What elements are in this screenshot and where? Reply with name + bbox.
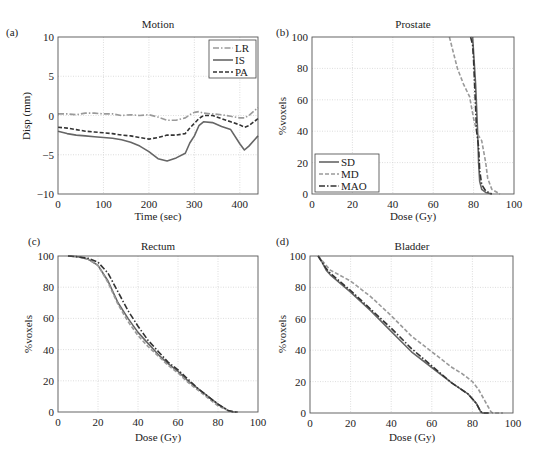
legend-label-is: IS [235,54,245,66]
y-tick-label: −10 [37,188,55,200]
ylabel-b: %voxels [276,97,288,135]
x-tick-label: 100 [250,416,267,428]
y-tick-label: −5 [42,149,54,161]
x-tick-label: 80 [213,416,225,428]
legend-label-lr: LR [235,42,250,54]
y-tick-label: 100 [290,250,307,262]
y-tick-label: 80 [43,281,55,293]
y-tick-label: 10 [43,31,55,43]
panel-b: (b) Prostate 020406080100020406080100SDM… [276,18,523,223]
ylabel-d: %voxels [276,315,288,353]
ylabel-a: Disp (mm) [20,92,33,140]
y-tick-label: 0 [303,188,309,200]
plot-area-d: 020406080100020406080100 [290,250,522,429]
series-line-sd [473,37,492,194]
xlabel-d: Dose (Gy) [389,431,435,444]
y-tick-label: 40 [43,344,55,356]
x-tick-label: 300 [186,198,203,210]
x-tick-label: 100 [505,417,522,429]
plot-area-a: 0100200300400−10−50510LRISPA [37,31,258,210]
x-tick-label: 40 [387,198,399,210]
x-tick-label: 40 [133,416,145,428]
y-tick-label: 0 [49,406,55,418]
legend-label-pa: PA [235,66,248,78]
panel-label-d: (d) [276,235,289,248]
x-tick-label: 60 [428,198,440,210]
series-line-sd [318,256,489,413]
x-tick-label: 0 [55,416,61,428]
y-tick-label: 0 [301,407,307,419]
panel-c: (c) Rectum 020406080100020406080100 Dose… [22,235,267,444]
x-tick-label: 20 [345,417,357,429]
x-tick-label: 400 [232,198,249,210]
y-tick-label: 60 [297,94,309,106]
y-tick-label: 80 [297,62,309,74]
y-tick-label: 20 [297,157,309,169]
axes-frame [58,256,258,412]
y-tick-label: 100 [38,250,55,262]
panel-label-a: (a) [6,26,19,39]
x-tick-label: 20 [93,416,105,428]
y-tick-label: 60 [43,312,55,324]
panel-label-b: (b) [276,26,289,39]
xlabel-c: Dose (Gy) [135,431,181,444]
series-line-lr [58,108,258,121]
legend-label-mao: MAO [341,180,367,192]
x-tick-label: 40 [386,417,398,429]
y-tick-label: 40 [295,344,307,356]
panel-d: (d) Bladder 020406080100020406080100 Dos… [276,235,522,444]
series-line-mao [68,256,238,412]
x-tick-label: 200 [141,198,158,210]
y-tick-label: 40 [297,125,309,137]
ylabel-c: %voxels [22,315,34,353]
xlabel-a: Time (sec) [135,210,182,223]
x-tick-label: 60 [173,416,185,428]
x-tick-label: 0 [309,198,315,210]
x-tick-label: 20 [347,198,359,210]
legend: SDMDMAO [315,154,379,192]
series-line-md [68,256,238,412]
x-tick-label: 60 [426,417,438,429]
plot-area-c: 020406080100020406080100 [38,250,267,428]
x-tick-label: 0 [55,198,61,210]
panel-title-c: Rectum [141,240,176,252]
x-tick-label: 100 [506,198,523,210]
y-tick-label: 80 [295,281,307,293]
figure: (a) Motion 0100200300400−10−50510LRISPA … [0,0,544,465]
panel-title-b: Prostate [395,18,431,30]
legend-label-sd: SD [341,156,355,168]
panel-title-a: Motion [142,18,175,30]
x-tick-label: 100 [95,198,112,210]
panel-a: (a) Motion 0100200300400−10−50510LRISPA … [6,18,258,223]
series-line-mao [318,256,489,413]
axes-frame [310,256,513,413]
y-tick-label: 20 [295,376,307,388]
x-tick-label: 80 [468,198,480,210]
legend-label-md: MD [341,168,359,180]
x-tick-label: 80 [467,417,479,429]
y-tick-label: 5 [49,70,55,82]
xlabel-b: Dose (Gy) [390,210,436,223]
legend: LRISPA [209,40,256,78]
y-tick-label: 100 [292,31,309,43]
y-tick-label: 60 [295,313,307,325]
x-tick-label: 0 [307,417,313,429]
panel-title-d: Bladder [395,240,430,252]
panel-label-c: (c) [28,235,41,248]
series-line-sd [68,256,238,412]
y-tick-label: 20 [43,375,55,387]
plot-area-b: 020406080100020406080100SDMDMAO [292,31,523,210]
series-line-md [318,256,503,413]
y-tick-label: 0 [49,110,55,122]
